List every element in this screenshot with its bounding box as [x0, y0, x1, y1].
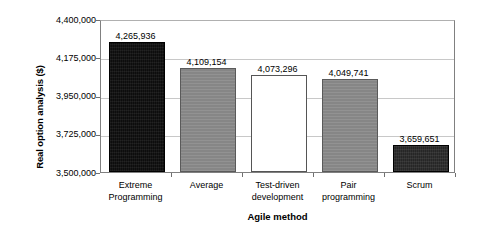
plot-area [100, 20, 455, 173]
bar-value-label: 4,049,741 [309, 68, 389, 78]
x-axis-tick-mark [313, 173, 314, 177]
y-axis-tick-label: 4,400,000 [34, 16, 96, 25]
x-axis-tick-mark [455, 173, 456, 177]
bar[interactable] [251, 75, 307, 172]
bar[interactable] [393, 145, 449, 172]
bar-value-label: 4,265,936 [96, 31, 176, 41]
bar[interactable] [180, 68, 236, 172]
x-axis-title: Agile method [100, 211, 455, 222]
y-axis-tick-label: 4,175,000 [34, 54, 96, 63]
y-axis-tick-label: 3,725,000 [34, 130, 96, 139]
y-axis-tick-label: 3,950,000 [34, 92, 96, 101]
y-axis-tick-label: 3,500,000 [34, 169, 96, 178]
bar-chart: Real option analysis ($) 4,400,0004,175,… [0, 0, 480, 234]
bar-value-label: 3,659,651 [380, 134, 460, 144]
bar[interactable] [322, 79, 378, 172]
x-axis-tick-mark [171, 173, 172, 177]
x-axis-category-label: Scrum [375, 180, 465, 192]
bar-value-label: 4,109,154 [167, 57, 247, 67]
y-axis-tick-mark [96, 173, 100, 174]
bar-value-label: 4,073,296 [238, 64, 318, 74]
x-axis-title-text: Agile method [247, 211, 307, 222]
bar[interactable] [109, 42, 165, 172]
y-axis-tick-labels: 4,400,0004,175,0003,950,0003,725,0003,50… [34, 0, 96, 234]
x-axis-tick-mark [242, 173, 243, 177]
x-axis-tick-mark [384, 173, 385, 177]
